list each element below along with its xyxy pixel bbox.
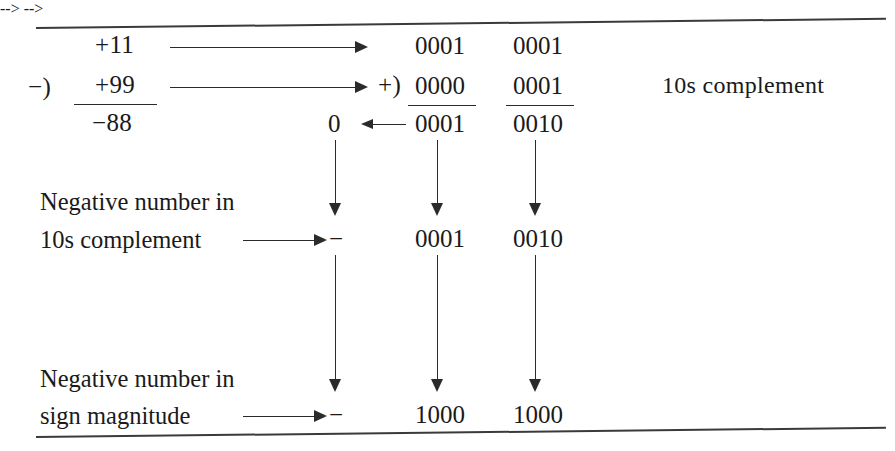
tens-complement-caption: 10s complement <box>662 73 824 97</box>
map-arrow-subtrahend-head-icon <box>355 81 368 93</box>
map-arrow-subtrahend-line <box>170 87 356 88</box>
convert-arrow-digit2-head-icon <box>529 379 541 392</box>
neg-10s-label-line2: 10s complement <box>40 224 201 255</box>
transfer-arrow-sign-head-icon <box>329 203 341 216</box>
convert-arrow-sign-head-icon <box>329 379 341 392</box>
bcd-sum-rule-digit-1 <box>408 105 476 106</box>
neg-10s-digit-1: 0001 <box>415 226 465 251</box>
transfer-arrow-digit2-line <box>535 140 536 206</box>
transfer-arrow-digit2-head-icon <box>529 203 541 216</box>
convert-arrow-sign-line <box>335 255 336 383</box>
map-arrow-minuend-head-icon <box>355 41 368 53</box>
bcd-sum-digit-1: 0001 <box>415 111 465 136</box>
neg-sign-arrow-head-icon <box>314 410 327 422</box>
neg-10s-arrow-line <box>243 240 315 241</box>
map-arrow-minuend-line <box>170 47 356 48</box>
transfer-arrow-digit1-line <box>437 140 438 206</box>
neg-sign-digit-1: 1000 <box>415 402 465 427</box>
transfer-arrow-sign-line <box>335 140 336 206</box>
bcd-sum-digit-2: 0010 <box>513 111 563 136</box>
carry-arrow-line <box>372 124 406 125</box>
convert-arrow-digit1-line <box>437 255 438 383</box>
neg-sign-sign: − <box>329 402 343 427</box>
convert-arrow-digit2-line <box>535 255 536 383</box>
decimal-subtrahend: +99 <box>95 72 135 97</box>
carry-arrow-head-icon <box>361 119 373 129</box>
figure-top-rule <box>36 18 886 29</box>
bcd-subtrahend-digit-1: 0000 <box>415 73 465 98</box>
neg-sign-digit-2: 1000 <box>513 402 563 427</box>
neg-10s-sign: − <box>329 226 343 251</box>
tens-complement-subtraction-figure: +11 −) +99 −88 --> --> +) 0001 0001 0000… <box>0 0 895 451</box>
neg-10s-arrow-head-icon <box>314 234 327 246</box>
bcd-plus-operator: +) <box>378 72 401 97</box>
neg-sign-arrow-line <box>243 416 315 417</box>
transfer-arrow-digit1-head-icon <box>431 203 443 216</box>
neg-10s-label-line1: Negative number in <box>40 186 235 217</box>
neg-sign-label-line2: sign magnitude <box>40 400 190 431</box>
decimal-result: −88 <box>92 110 132 135</box>
bcd-carry-digit: 0 <box>328 111 341 136</box>
neg-10s-digit-2: 0010 <box>513 226 563 251</box>
bcd-minuend-digit-1: 0001 <box>415 33 465 58</box>
decimal-minuend: +11 <box>95 32 134 57</box>
bcd-minuend-digit-2: 0001 <box>513 33 563 58</box>
convert-arrow-digit1-head-icon <box>431 379 443 392</box>
decimal-subtract-operator: −) <box>28 74 51 99</box>
decimal-sum-rule <box>74 104 157 105</box>
bcd-subtrahend-digit-2: 0001 <box>513 73 563 98</box>
neg-sign-label-line1: Negative number in <box>40 363 235 394</box>
bcd-sum-rule-digit-2 <box>506 105 574 106</box>
